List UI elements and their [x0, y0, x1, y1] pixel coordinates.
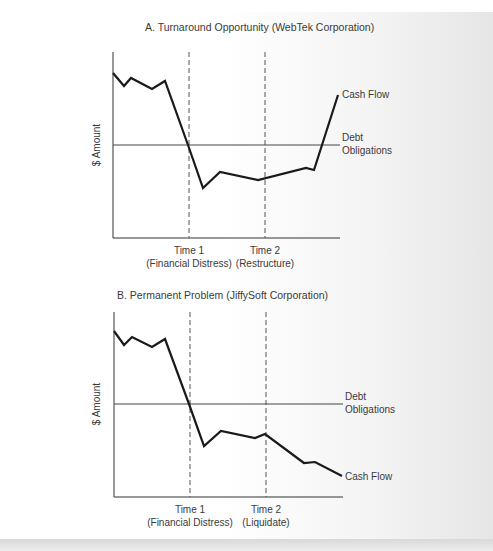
chart-b-time1-sublabel: (Financial Distress)	[147, 517, 233, 528]
chart-b-time2-label: Time 2	[251, 504, 282, 515]
chart-a-time2-sublabel: (Restructure)	[236, 258, 294, 269]
chart-b-debt-label-1: Debt	[345, 391, 366, 402]
chart-b-debt-label-2: Obligations	[345, 404, 395, 415]
chart-b-cash-flow-label: Cash Flow	[345, 471, 393, 482]
chart-a-ylabel: $ Amount	[91, 124, 102, 166]
chart-a-cash-flow-line	[113, 73, 338, 188]
chart-b: B. Permanent Problem (JiffySoft Corporat…	[91, 289, 395, 528]
chart-a-debt-label-1: Debt	[342, 132, 363, 143]
chart-a-time2-label: Time 2	[250, 245, 281, 256]
chart-a-title: A. Turnaround Opportunity (WebTek Corpor…	[145, 21, 374, 33]
chart-a: A. Turnaround Opportunity (WebTek Corpor…	[91, 21, 392, 269]
chart-a-time1-label: Time 1	[174, 245, 205, 256]
chart-a-cash-flow-label: Cash Flow	[342, 89, 390, 100]
chart-b-ylabel: $ Amount	[91, 383, 102, 425]
chart-b-time2-sublabel: (Liquidate)	[242, 517, 289, 528]
chart-a-debt-label-2: Obligations	[342, 145, 392, 156]
chart-a-time1-sublabel: (Financial Distress)	[146, 258, 232, 269]
chart-b-time1-label: Time 1	[175, 504, 206, 515]
chart-b-title: B. Permanent Problem (JiffySoft Corporat…	[117, 289, 328, 301]
figure: A. Turnaround Opportunity (WebTek Corpor…	[0, 0, 493, 551]
